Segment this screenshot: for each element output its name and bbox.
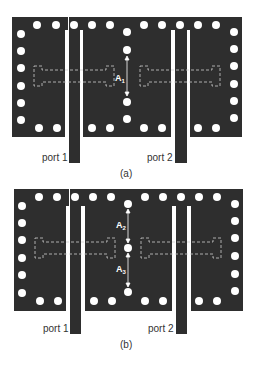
port-1-label: port 1 (42, 152, 68, 163)
caption-b: (b) (120, 339, 132, 350)
figure-b: A2 A3 port 1 port 2 (b) (0, 185, 254, 370)
filter-layout-diagram-a: A1 (0, 0, 254, 185)
port-1-label: port 1 (43, 323, 69, 334)
caption-a: (a) (120, 168, 132, 179)
port-2-label: port 2 (148, 323, 174, 334)
port-2-label: port 2 (147, 152, 173, 163)
figure-a: A1 port 1 port 2 (a) (0, 0, 254, 185)
